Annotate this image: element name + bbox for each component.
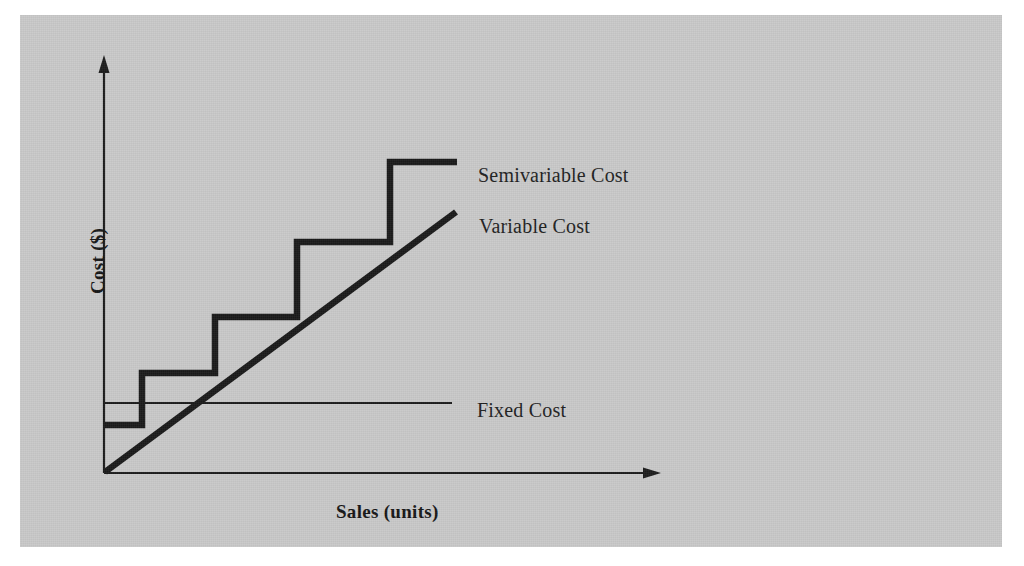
fixed-cost-label: Fixed Cost [477,399,566,422]
variable-cost-line [105,212,456,472]
semivariable-cost-label: Semivariable Cost [478,164,629,187]
figure-root: Semivariable Cost Variable Cost Fixed Co… [0,0,1024,566]
chart-panel: Semivariable Cost Variable Cost Fixed Co… [20,15,1002,547]
semivariable-cost-step-line [104,162,457,425]
plot-canvas [20,15,1002,547]
y-axis-title: Cost ($) [87,234,109,294]
y-axis-arrow-icon [99,55,110,73]
x-axis-arrow-icon [643,468,661,479]
x-axis-title: Sales (units) [336,501,439,523]
variable-cost-label: Variable Cost [479,215,590,238]
